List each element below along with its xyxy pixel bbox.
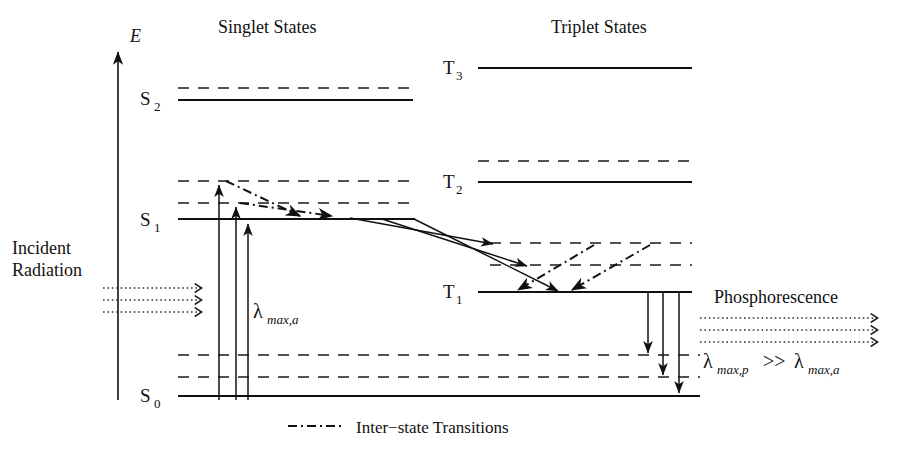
incident-radiation-label-line1: Incident bbox=[12, 238, 71, 258]
level-s0 bbox=[178, 355, 700, 396]
jablonski-diagram-canvas: Singlet States Triplet States E S 2 S 1 … bbox=[0, 0, 899, 452]
state-label-t2: T bbox=[443, 171, 455, 192]
heading-triplet-states: Triplet States bbox=[551, 17, 647, 37]
state-label-s1-subscript: 1 bbox=[154, 220, 161, 235]
lambda-comparison-operator: >> bbox=[763, 350, 786, 372]
internal-conversion-arrows bbox=[226, 181, 332, 216]
intersystem-crossing-arrow-2 bbox=[382, 219, 527, 266]
phosphorescence-output-arrows bbox=[700, 318, 876, 342]
level-s2 bbox=[178, 88, 413, 100]
intersystem-crossing-arrow-1 bbox=[350, 218, 493, 244]
state-label-s1: S bbox=[140, 209, 151, 230]
state-label-t3-subscript: 3 bbox=[456, 68, 463, 83]
lambda-max-phosphorescence-subscript: max,p bbox=[717, 362, 749, 377]
heading-singlet-states: Singlet States bbox=[218, 17, 317, 37]
triplet-relaxation-arrows bbox=[518, 245, 650, 290]
phosphorescence-label: Phosphorescence bbox=[714, 287, 838, 307]
incident-radiation-label-line2: Radiation bbox=[12, 260, 82, 280]
absorption-arrows bbox=[219, 185, 248, 400]
jablonski-diagram: Singlet States Triplet States E S 2 S 1 … bbox=[0, 0, 899, 452]
state-label-t2-subscript: 2 bbox=[456, 182, 463, 197]
internal-conversion-arrow-1 bbox=[226, 181, 300, 216]
legend-label: Inter−state Transitions bbox=[356, 418, 509, 437]
triplet-relaxation-arrow-2 bbox=[572, 245, 650, 290]
state-label-s2-subscript: 2 bbox=[154, 99, 161, 114]
singlet-manifold bbox=[178, 88, 700, 396]
state-label-s0-subscript: 0 bbox=[154, 396, 161, 411]
lambda-max-absorption-symbol: λ bbox=[253, 300, 263, 322]
intersystem-crossing-arrow-3 bbox=[414, 219, 558, 291]
state-label-t3: T bbox=[443, 57, 455, 78]
level-t2 bbox=[478, 161, 692, 182]
lambda-max-absorption-subscript: max,a bbox=[267, 312, 299, 327]
diagram-labels: Singlet States Triplet States E S 2 S 1 … bbox=[12, 17, 840, 437]
internal-conversion-arrow-2 bbox=[240, 203, 332, 216]
state-label-s0: S bbox=[140, 385, 151, 406]
triplet-manifold bbox=[478, 68, 692, 292]
lambda-max-absorption-symbol-2: λ bbox=[794, 350, 804, 372]
state-label-t1-subscript: 1 bbox=[456, 292, 463, 307]
lambda-max-absorption-subscript-2: max,a bbox=[808, 362, 840, 377]
state-label-t1: T bbox=[443, 281, 455, 302]
lambda-max-phosphorescence-symbol: λ bbox=[703, 350, 713, 372]
energy-axis-label: E bbox=[129, 26, 141, 46]
state-label-s2: S bbox=[140, 88, 151, 109]
